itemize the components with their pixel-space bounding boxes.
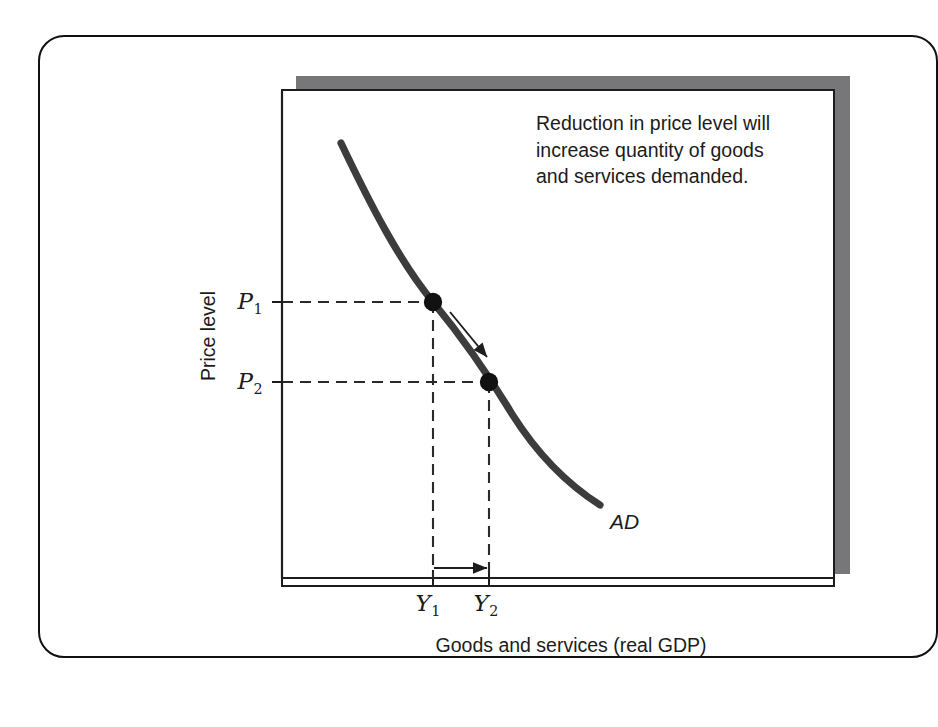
y-tick-label-p2-sub: 2 [253,380,262,396]
y-tick-label-p1-base: P [237,288,252,314]
x-tick-label-y2-sub: 2 [489,602,498,618]
y-tick-label-p2: P2 [237,368,262,397]
x-axis-title: Goods and services (real GDP) [436,634,707,657]
x-tick-label-y1-sub: 1 [431,602,440,618]
x-tick-label-y2: Y2 [474,590,499,619]
x-tick-label-y2-base: Y [474,590,489,616]
y-axis-title: Price level [197,291,220,381]
y-tick-label-p1-sub: 1 [253,300,262,316]
callout-text: Reduction in price level will increase q… [536,110,836,190]
equilibrium-point-1 [424,293,442,311]
equilibrium-point-2 [480,373,498,391]
curve-label-ad: AD [610,510,639,534]
y-tick-label-p1: P1 [237,288,262,317]
x-tick-label-y1: Y1 [416,590,441,619]
x-tick-label-y1-base: Y [416,590,431,616]
aggregate-demand-curve [341,143,600,505]
y-tick-label-p2-base: P [237,368,252,394]
